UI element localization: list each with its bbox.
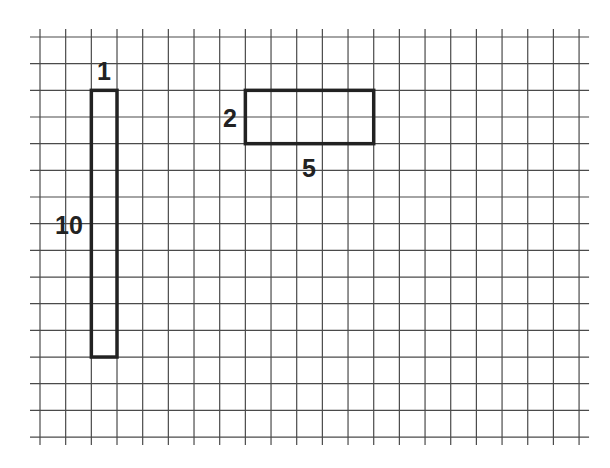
tall-rectangle-width-label: 1 bbox=[97, 57, 111, 85]
wide-rectangle-width-label: 5 bbox=[302, 154, 316, 182]
rectangles-layer: 1 10 2 5 bbox=[55, 57, 374, 357]
tall-rectangle-height-label: 10 bbox=[55, 211, 83, 239]
grid-diagram: 1 10 2 5 bbox=[0, 0, 610, 468]
wide-rectangle-height-label: 2 bbox=[223, 104, 237, 132]
